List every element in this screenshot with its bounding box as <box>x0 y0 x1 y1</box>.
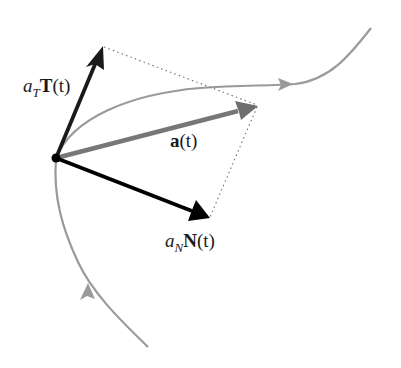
argument-t: (t) <box>52 75 70 96</box>
vector-N: N <box>183 230 197 251</box>
vector-T: T <box>40 75 53 96</box>
dotted-guide-top <box>104 47 257 105</box>
curve-upper <box>56 28 371 158</box>
argument-t: (t) <box>180 130 198 151</box>
vector-a: a <box>170 130 180 151</box>
curve-lower <box>55 158 148 347</box>
subscript-N: N <box>175 240 184 255</box>
curve-point <box>52 154 61 163</box>
tangential-component-label: aTT(t) <box>23 76 70 95</box>
normal-vector-shaft <box>56 158 192 211</box>
normal-component-label: aNN(t) <box>165 231 215 250</box>
subscript-T: T <box>33 85 40 100</box>
scalar-a: a <box>23 75 33 96</box>
dotted-guide-right <box>210 107 257 217</box>
acceleration-vector-shaft <box>56 111 238 158</box>
acceleration-label: a(t) <box>170 131 197 150</box>
acceleration-diagram <box>0 0 401 368</box>
argument-t: (t) <box>197 230 215 251</box>
scalar-a: a <box>165 230 175 251</box>
